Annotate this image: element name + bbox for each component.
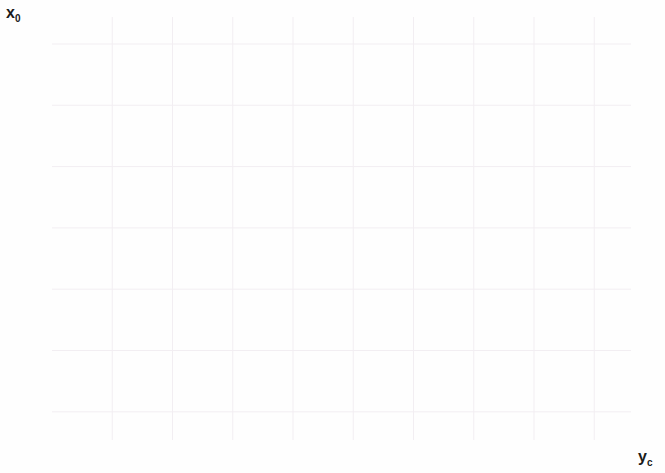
plot-area: [0, 0, 665, 473]
chart-figure: x0 yc: [0, 0, 665, 473]
gridlines: [52, 17, 631, 440]
